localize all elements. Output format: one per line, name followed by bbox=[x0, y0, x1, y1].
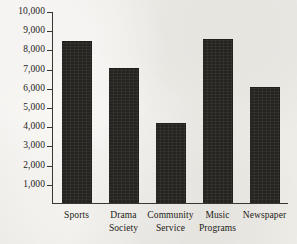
bar-slot bbox=[53, 12, 100, 203]
x-axis-labels: SportsDramaSocietyCommunityServiceMusicP… bbox=[53, 209, 288, 243]
bar bbox=[109, 68, 139, 203]
x-axis-label-line: Society bbox=[100, 222, 147, 235]
x-axis-label-line: Drama bbox=[100, 209, 147, 222]
bar-chart-figure: 1,0002,0003,0004,0005,0006,0007,0008,000… bbox=[0, 0, 297, 244]
bar bbox=[203, 39, 233, 203]
bar bbox=[250, 87, 280, 204]
bar-slot bbox=[147, 12, 194, 203]
bar-slot bbox=[100, 12, 147, 203]
x-axis-label: MusicPrograms bbox=[194, 209, 241, 234]
x-axis-label: CommunityService bbox=[147, 209, 194, 234]
x-axis-label-line: Music bbox=[194, 209, 241, 222]
plot-area: 1,0002,0003,0004,0005,0006,0007,0008,000… bbox=[52, 12, 288, 204]
x-axis-label-line: Newspaper bbox=[241, 209, 288, 222]
x-axis-label-line: Community bbox=[147, 209, 194, 222]
bars-layer bbox=[53, 12, 288, 203]
y-axis-tick-label: 6,000 bbox=[23, 84, 45, 94]
x-axis-line bbox=[52, 203, 288, 204]
bar-slot bbox=[194, 12, 241, 203]
x-axis-label: DramaSociety bbox=[100, 209, 147, 234]
y-axis-tick-label: 5,000 bbox=[23, 103, 45, 113]
y-axis-tick-label: 10,000 bbox=[18, 7, 45, 17]
y-axis-tick-label: 3,000 bbox=[23, 142, 45, 152]
y-axis-tick-label: 4,000 bbox=[23, 122, 45, 132]
x-axis-label-line: Service bbox=[147, 222, 194, 235]
y-axis-tick-label: 9,000 bbox=[23, 26, 45, 36]
bar-slot bbox=[241, 12, 288, 203]
bar bbox=[156, 123, 186, 203]
x-axis-label: Sports bbox=[53, 209, 100, 222]
y-axis-tick-label: 8,000 bbox=[23, 46, 45, 56]
x-axis-label-line: Sports bbox=[53, 209, 100, 222]
y-axis-tick-label: 2,000 bbox=[23, 161, 45, 171]
x-axis-label-line: Programs bbox=[194, 222, 241, 235]
y-axis-tick-label: 7,000 bbox=[23, 65, 45, 75]
y-axis-tick-label: 1,000 bbox=[23, 180, 45, 190]
bar bbox=[62, 41, 92, 203]
x-axis-label: Newspaper bbox=[241, 209, 288, 222]
